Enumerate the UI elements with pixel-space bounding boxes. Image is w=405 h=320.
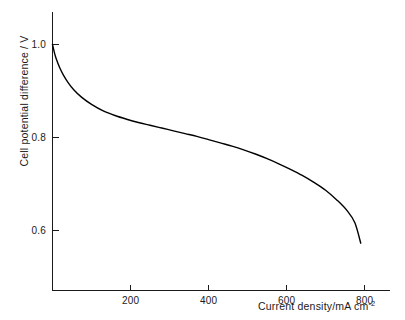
y-axis-label: Cell potential difference / V <box>18 31 30 171</box>
x-axis-label-exponent: -2 <box>368 299 375 308</box>
x-tick-marks <box>131 285 365 291</box>
polarization-curve-line <box>53 44 361 243</box>
x-axis-label: Current density/mA cm-2 <box>258 300 375 312</box>
polarization-curve-figure: 0.60.81.0 200400600800 Current density/m… <box>0 0 405 320</box>
plot-canvas <box>0 0 405 320</box>
x-tick-label: 200 <box>122 295 139 306</box>
x-tick-label: 400 <box>200 295 217 306</box>
y-tick-label: 0.6 <box>10 225 46 236</box>
x-axis-label-text: Current density/mA cm <box>258 300 368 312</box>
y-tick-marks <box>53 44 59 230</box>
